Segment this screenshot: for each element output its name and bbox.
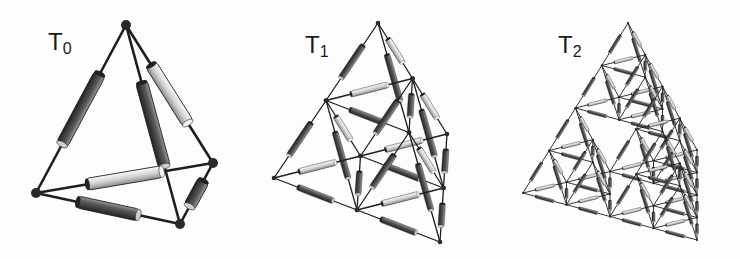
resistor-icon: [591, 146, 594, 157]
junction-node: [644, 76, 646, 78]
label-T2: T2: [558, 33, 582, 57]
resistor-icon: [613, 56, 633, 64]
junction-node: [121, 20, 131, 30]
resistor-icon: [648, 165, 668, 173]
sierpinski-tetrahedron-resistor-figure: T0 T1 T2: [0, 0, 740, 259]
resistor-icon: [609, 177, 612, 188]
resistor-icon: [622, 162, 642, 170]
junction-node: [272, 176, 277, 181]
resistor-icon: [616, 140, 630, 160]
label-subscript: 2: [573, 43, 582, 60]
figure-canvas: [0, 0, 740, 259]
junction-node: [696, 172, 698, 174]
resistor-icon: [379, 216, 418, 236]
resistor-icon: [648, 120, 668, 128]
tetrahedron-T1: [272, 21, 450, 245]
junction-node: [175, 219, 185, 229]
resistor-icon: [535, 184, 555, 192]
resistor-icon: [297, 159, 337, 175]
junction-node: [662, 131, 664, 133]
junction-node: [644, 54, 646, 56]
resistor-icon: [555, 119, 569, 139]
resistor-icon: [618, 103, 621, 114]
junction-node: [653, 160, 655, 162]
label-T0: T0: [48, 30, 72, 54]
resistor-icon: [572, 151, 586, 171]
resistor-icon: [183, 176, 210, 212]
junction-node: [662, 108, 664, 110]
resistor-icon: [661, 92, 664, 103]
junction-node: [609, 216, 611, 218]
label-main: T: [48, 28, 63, 55]
resistor-icon: [665, 230, 685, 238]
resistor-icon: [659, 197, 673, 217]
junction-node: [548, 150, 550, 152]
junction-node: [653, 182, 655, 184]
junction-node: [696, 149, 698, 151]
resistor-icon: [696, 223, 699, 234]
label-main: T: [305, 31, 320, 58]
junction-node: [696, 194, 698, 196]
resistor-icon: [529, 162, 543, 182]
junction-node: [522, 192, 524, 194]
junction-node: [609, 193, 611, 195]
junction-node: [445, 132, 450, 137]
junction-node: [618, 119, 620, 121]
resistor-icon: [581, 77, 595, 97]
resistor-icon: [438, 202, 446, 228]
junction-node: [609, 171, 611, 173]
resistor-icon: [84, 165, 165, 190]
resistor-icon: [659, 174, 673, 194]
junction-node: [627, 22, 629, 24]
resistor-icon: [355, 170, 363, 196]
resistor-icon: [648, 131, 668, 139]
resistor-icon: [613, 67, 633, 75]
resistor-icon: [296, 184, 335, 204]
resistor-icon: [441, 148, 449, 174]
resistor-icon: [561, 152, 581, 160]
resistor-icon: [578, 196, 598, 204]
resistor-icon: [561, 141, 581, 149]
resistor-icon: [696, 178, 699, 189]
junction-node: [575, 107, 577, 109]
tetrahedron-T2: [522, 22, 699, 241]
label-subscript: 0: [63, 40, 72, 57]
junction-node: [592, 139, 594, 141]
resistor-icon: [631, 99, 651, 107]
junction-node: [566, 204, 568, 206]
junction-node: [410, 76, 415, 81]
resistor-icon: [578, 184, 598, 192]
resistor-icon: [609, 200, 612, 211]
junction-node: [324, 98, 329, 103]
resistor-icon: [572, 173, 586, 193]
junction-node: [566, 181, 568, 183]
junction-node: [31, 188, 41, 198]
junction-node: [208, 158, 218, 168]
junction-node: [679, 117, 681, 119]
resistor-icon: [407, 93, 415, 119]
resistor-icon: [56, 69, 107, 150]
resistor-icon: [380, 191, 420, 207]
junction-node: [601, 65, 603, 67]
junction-node: [635, 128, 637, 130]
resistor-icon: [652, 212, 655, 223]
resistor-icon: [631, 122, 651, 130]
junction-node: [662, 86, 664, 88]
resistor-icon: [349, 82, 389, 98]
resistor-icon: [678, 124, 681, 135]
junction-node: [696, 239, 698, 241]
junction-node: [618, 96, 620, 98]
resistor-icon: [625, 66, 639, 86]
resistor-icon: [665, 185, 685, 193]
resistor-icon: [565, 188, 568, 199]
resistor-icon: [578, 207, 598, 215]
resistor-icon: [286, 120, 314, 158]
junction-node: [679, 162, 681, 164]
label-T1: T1: [305, 33, 329, 57]
junction-node: [376, 21, 381, 26]
label-subscript: 1: [320, 43, 329, 60]
junction-node: [592, 161, 594, 163]
resistor-icon: [644, 61, 647, 72]
resistor-icon: [74, 196, 142, 222]
resistor-icon: [622, 207, 642, 215]
